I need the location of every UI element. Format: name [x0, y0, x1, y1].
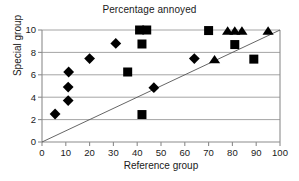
- data-point-square: [249, 55, 258, 64]
- data-point-diamond: [84, 53, 95, 64]
- y-tick-label: 2: [31, 114, 36, 125]
- data-point-square: [137, 110, 146, 119]
- x-tick-label: 70: [203, 147, 214, 158]
- data-point-diamond: [63, 82, 74, 93]
- x-tick-label: 40: [132, 147, 143, 158]
- reference-line-1to1: [42, 30, 280, 142]
- data-point-triangle: [263, 26, 274, 34]
- scatter-plot: 02468100102030405060708090100: [0, 0, 299, 181]
- y-tick-label: 4: [31, 92, 36, 103]
- x-tick-label: 60: [180, 147, 191, 158]
- data-point-diamond: [110, 38, 121, 49]
- data-point-square: [123, 68, 132, 77]
- x-tick-label: 30: [108, 147, 119, 158]
- x-tick-label: 50: [156, 147, 167, 158]
- data-point-diamond: [50, 109, 61, 120]
- y-tick-label: 8: [31, 47, 36, 58]
- x-tick-label: 20: [84, 147, 95, 158]
- x-tick-label: 90: [251, 147, 262, 158]
- data-point-square: [204, 26, 213, 35]
- data-point-diamond: [189, 53, 200, 64]
- x-tick-label: 100: [272, 147, 288, 158]
- data-point-triangle: [236, 26, 247, 34]
- reference-line: [42, 30, 280, 142]
- data-markers: [50, 26, 274, 120]
- data-point-square: [230, 40, 239, 49]
- gridlines: [42, 30, 280, 120]
- data-point-square: [137, 40, 146, 49]
- chart-figure: Percentage annoyed Special group Referen…: [0, 0, 299, 181]
- y-tick-label: 0: [31, 136, 36, 147]
- x-tick-label: 80: [227, 147, 238, 158]
- data-point-square: [142, 26, 151, 35]
- x-tick-label: 0: [39, 147, 44, 158]
- data-point-diamond: [63, 67, 74, 78]
- y-tick-label: 6: [31, 69, 36, 80]
- y-tick-label: 10: [25, 24, 36, 35]
- x-tick-label: 10: [61, 147, 72, 158]
